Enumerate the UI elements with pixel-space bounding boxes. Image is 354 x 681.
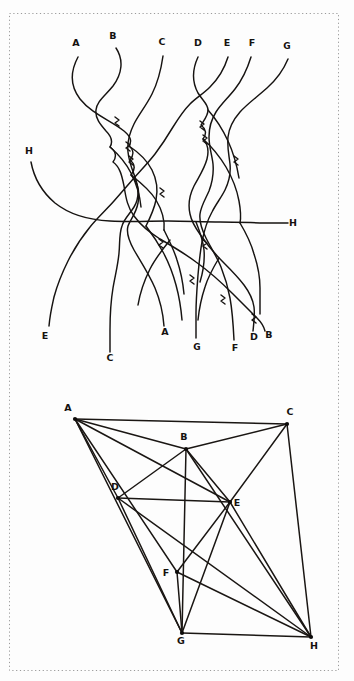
crossing-mark-5 — [160, 188, 164, 197]
graph-node-label-h: H — [310, 640, 318, 651]
graph-node-label-c: C — [286, 406, 293, 417]
braid-top-label-c: C — [158, 36, 165, 47]
tangled-strand-diagram: A B C D E F G H H E C A G F D B — [25, 30, 297, 363]
page-frame — [10, 14, 339, 671]
graph-node-label-g: G — [177, 635, 185, 646]
braid-top-label-a: A — [72, 37, 80, 48]
graph-node-a[interactable] — [73, 417, 77, 421]
graph-node-d[interactable] — [116, 496, 120, 500]
strand-arc-6 — [146, 226, 182, 320]
crossing-mark-11 — [252, 314, 256, 323]
braid-right-label-h: H — [289, 217, 297, 228]
strand-arc-8 — [240, 223, 260, 314]
braid-bottom-label-a: A — [161, 326, 169, 337]
graph-node-label-b: B — [180, 431, 187, 442]
figure-page: A B C D E F G H H E C A G F D B ABCDEFGH — [0, 0, 354, 681]
braid-bottom-label-b: B — [265, 329, 272, 340]
strand-d — [189, 57, 254, 331]
braid-top-label-b: B — [109, 30, 116, 41]
graph-node-h[interactable] — [309, 635, 313, 639]
graph-node-group: ABCDEFGH — [64, 402, 318, 651]
node-link-graph: ABCDEFGH — [64, 402, 318, 651]
graph-edge-g-h — [182, 633, 311, 637]
braid-bottom-label-d: D — [250, 331, 258, 342]
braid-bottom-label-f: F — [232, 342, 239, 353]
braid-top-label-e: E — [224, 37, 231, 48]
graph-edge-e-g — [182, 502, 230, 633]
strand-arc-10 — [138, 240, 170, 305]
figure-canvas: A B C D E F G H H E C A G F D B ABCDEFGH — [0, 0, 354, 681]
crossing-mark-9 — [190, 275, 194, 284]
braid-top-label-d: D — [194, 37, 202, 48]
braid-bottom-label-e: E — [42, 330, 49, 341]
graph-node-b[interactable] — [184, 447, 188, 451]
strand-arc-7 — [164, 230, 184, 294]
braid-bottom-label-g: G — [193, 342, 201, 352]
crossing-mark-10 — [221, 295, 225, 304]
graph-node-label-f: F — [163, 567, 170, 578]
graph-edge-a-g — [75, 419, 182, 633]
graph-node-e[interactable] — [228, 500, 232, 504]
graph-node-label-a: A — [64, 402, 72, 413]
braid-top-label-f: F — [249, 37, 256, 48]
graph-edge-group — [75, 419, 311, 637]
graph-edge-d-h — [118, 498, 311, 637]
braid-top-label-g: G — [283, 41, 291, 51]
braid-left-label-h: H — [25, 145, 33, 156]
strand-b — [96, 48, 265, 331]
graph-edge-b-e — [186, 449, 230, 502]
braid-bottom-label-c: C — [106, 352, 113, 363]
graph-node-label-e: E — [234, 497, 241, 508]
graph-node-label-d: D — [111, 481, 119, 492]
strand-h — [31, 162, 288, 223]
strand-arc-11 — [198, 258, 219, 320]
graph-edge-a-c — [75, 419, 287, 424]
graph-node-c[interactable] — [285, 422, 289, 426]
strand-g — [196, 59, 288, 338]
graph-edge-d-e — [118, 498, 230, 502]
graph-node-f[interactable] — [175, 570, 179, 574]
